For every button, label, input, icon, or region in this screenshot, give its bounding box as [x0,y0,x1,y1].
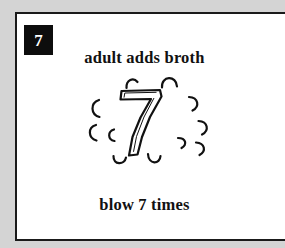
arc-bottom-right [148,154,161,162]
step-number-label: 7 [34,32,43,49]
instruction-card: 7 adult adds broth [15,12,285,241]
arc-right-upper [189,97,197,111]
arc-top-left [126,79,137,88]
arc-top-right [162,78,177,87]
arc-left-upper [92,100,99,117]
arc-left-inner [109,130,114,142]
arc-right-lower [199,121,207,135]
hand-drawn-seven-glyph [121,90,162,156]
caption-bottom: blow 7 times [17,195,272,215]
arc-left-lower [90,125,97,141]
arc-bottom-left [113,156,126,163]
illustration-steaming-seven [77,64,217,186]
arc-right-outer-low [196,143,204,156]
page-background: 7 adult adds broth [0,0,285,248]
arc-right-inner [178,138,185,148]
